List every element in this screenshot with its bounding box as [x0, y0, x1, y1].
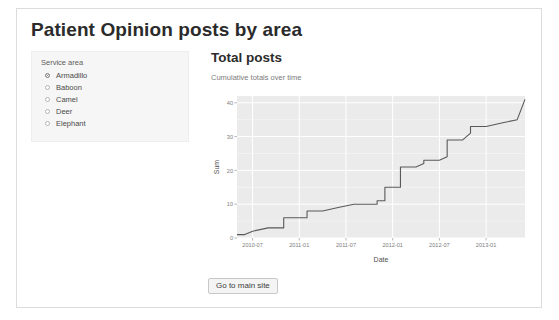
- x-tick-label: 2011-01: [289, 242, 309, 248]
- x-tick-label: 2012-07: [429, 242, 450, 248]
- main-heading: Total posts: [211, 51, 535, 66]
- y-tick-label: 30: [227, 134, 233, 140]
- sidebar-panel: Service area Armadillo Baboon Camel Deer…: [31, 51, 189, 142]
- chart-svg: 0102030402010-072011-012011-072012-01201…: [211, 90, 531, 268]
- main-panel: Total posts Cumulative totals over time …: [189, 51, 541, 268]
- y-tick-label: 10: [227, 201, 233, 207]
- radio-option-deer[interactable]: Deer: [45, 108, 180, 116]
- app-card: Patient Opinion posts by area Service ar…: [16, 8, 542, 308]
- radio-unselected-icon: [45, 97, 50, 102]
- service-area-label: Service area: [41, 59, 180, 67]
- radio-unselected-icon: [45, 85, 50, 90]
- content-row: Service area Armadillo Baboon Camel Deer…: [17, 45, 541, 268]
- page-title: Patient Opinion posts by area: [17, 9, 541, 45]
- x-tick-label: 2012-01: [382, 242, 403, 248]
- x-axis-title: Date: [374, 256, 389, 263]
- x-tick-label: 2013-01: [476, 242, 497, 248]
- radio-option-camel[interactable]: Camel: [45, 96, 180, 104]
- radio-unselected-icon: [45, 121, 50, 126]
- radio-option-armadillo[interactable]: Armadillo: [45, 72, 180, 80]
- main-subheading: Cumulative totals over time: [211, 73, 535, 82]
- radio-label: Deer: [56, 108, 72, 116]
- cumulative-posts-chart: 0102030402010-072011-012011-072012-01201…: [211, 90, 531, 268]
- radio-label: Camel: [56, 96, 78, 104]
- footer-bar: Go to main site: [17, 268, 541, 295]
- radio-label: Baboon: [56, 84, 82, 92]
- y-tick-label: 20: [227, 167, 233, 173]
- y-axis-title: Sum: [213, 159, 220, 174]
- radio-option-baboon[interactable]: Baboon: [45, 84, 180, 92]
- radio-label: Armadillo: [56, 72, 87, 80]
- x-tick-label: 2010-07: [242, 242, 263, 248]
- radio-option-elephant[interactable]: Elephant: [45, 120, 180, 128]
- go-to-main-site-button[interactable]: Go to main site: [208, 278, 278, 295]
- chart-panel: [237, 96, 525, 238]
- y-tick-label: 40: [227, 100, 233, 106]
- radio-selected-icon: [45, 73, 50, 78]
- radio-label: Elephant: [56, 120, 86, 128]
- radio-unselected-icon: [45, 109, 50, 114]
- x-tick-label: 2011-07: [336, 242, 356, 248]
- y-tick-label: 0: [230, 235, 233, 241]
